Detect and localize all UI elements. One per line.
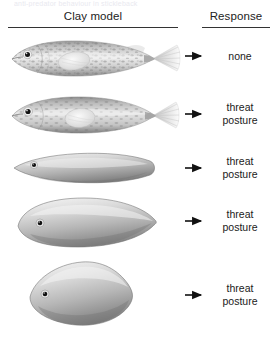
- table-row: threat posture: [0, 86, 277, 144]
- response-line: threat: [206, 101, 274, 114]
- response-cell: threat posture: [206, 155, 274, 180]
- arrow-cell: [184, 30, 206, 86]
- response-cell: threat posture: [206, 101, 274, 126]
- arrow-cell: [184, 254, 206, 334]
- response-line: posture: [206, 168, 274, 181]
- response-line: posture: [206, 114, 274, 127]
- stickleback-model-no-spines: [4, 86, 184, 144]
- elongated-lens-model: [4, 144, 184, 192]
- arrow-cell: [184, 192, 206, 254]
- model-cell: [4, 254, 184, 334]
- rounded-diamond-model: [4, 254, 184, 334]
- response-line: posture: [206, 295, 274, 308]
- table-row: threat posture: [0, 192, 277, 254]
- broad-oval-model: [4, 192, 184, 254]
- model-cell: [4, 192, 184, 254]
- model-cell: [4, 30, 184, 86]
- arrow-cell: [184, 144, 206, 192]
- model-cell: [4, 86, 184, 144]
- table-row: none: [0, 30, 277, 86]
- response-line: threat: [206, 208, 274, 221]
- cut-off-caption: anti-predator behaviour in stickleback: [14, 0, 264, 7]
- model-cell: [4, 144, 184, 192]
- response-line: threat: [206, 155, 274, 168]
- response-cell: threat posture: [206, 208, 274, 233]
- right-arrow-icon: [184, 86, 206, 144]
- clay-model-response-figure: anti-predator behaviour in stickleback C…: [0, 0, 277, 337]
- arrow-cell: [184, 86, 206, 144]
- right-arrow-icon: [184, 254, 206, 334]
- header-rule-response: [202, 27, 270, 28]
- header-rule-clay-model: [8, 27, 178, 28]
- realistic-stickleback-model: [4, 30, 184, 86]
- right-arrow-icon: [184, 30, 206, 86]
- response-cell: threat posture: [206, 282, 274, 307]
- column-header-clay-model: Clay model: [0, 10, 186, 22]
- right-arrow-icon: [184, 144, 206, 192]
- table-row: threat posture: [0, 254, 277, 334]
- table-row: threat posture: [0, 144, 277, 192]
- response-line: none: [206, 50, 274, 63]
- response-line: posture: [206, 221, 274, 234]
- response-line: threat: [206, 282, 274, 295]
- right-arrow-icon: [184, 192, 206, 254]
- column-header-response: Response: [196, 10, 276, 22]
- response-cell: none: [206, 50, 274, 63]
